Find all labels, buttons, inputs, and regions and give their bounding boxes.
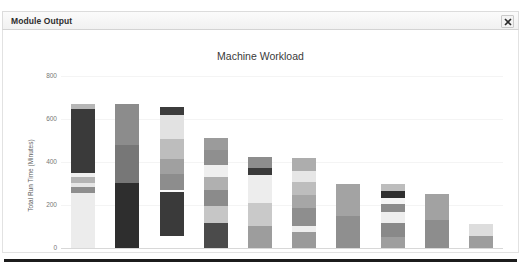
bar-segment [115,183,139,247]
bar[interactable] [160,107,184,248]
bar-segment [381,191,405,198]
bar-segment [292,171,316,182]
bar-segment [115,145,139,184]
bar[interactable] [204,138,228,248]
bar-segment [425,194,449,220]
bar-segment [469,236,493,248]
bar-segment [292,158,316,171]
bar-segment [381,184,405,191]
bar-segment [292,195,316,208]
close-icon [504,18,512,26]
bar[interactable] [248,157,272,248]
bar[interactable] [425,194,449,248]
plot-area: M1M2M3M4M5M6M7M8M9M10 [61,76,503,248]
bar-segment [71,109,95,173]
bar-segment [336,216,360,248]
bar-segment [248,175,272,203]
bar-segment [425,220,449,248]
y-tick-label: 400 [17,158,57,165]
bar-segment [292,208,316,226]
bar[interactable] [292,158,316,248]
window-titlebar: Module Output [2,11,519,30]
bar-segment [204,138,228,150]
bar-segment [160,107,184,115]
bar-segment [115,104,139,145]
bar-segment [381,223,405,236]
bar[interactable] [115,104,139,248]
chart-title: Machine Workload [3,50,518,62]
bar-segment [204,223,228,248]
bar-segment [469,224,493,236]
y-axis: Total Run Time (Minutes) 0200400600800 [11,76,57,248]
bar[interactable] [381,184,405,248]
y-axis-label: Total Run Time (Minutes) [27,111,34,241]
bar[interactable] [71,104,95,248]
machine-workload-chart: Machine Workload Total Run Time (Minutes… [3,30,518,251]
y-tick-label: 0 [17,244,57,251]
bar-segment [381,237,405,248]
gridline [61,76,503,77]
bar-segment [160,139,184,159]
close-button[interactable] [501,15,514,28]
module-output-window: Module Output Machine Workload Total Run… [0,11,521,255]
bar-segment [204,177,228,190]
bar-segment [204,190,228,205]
bar-segment [248,203,272,227]
bar-segment [248,226,272,247]
bar-segment [160,174,184,189]
bar-segment [204,150,228,164]
bar-segment [160,115,184,139]
bar-segment [292,232,316,247]
bar[interactable] [469,224,493,248]
y-tick-label: 800 [17,72,57,79]
bar[interactable] [336,184,360,248]
bar-segment [160,192,184,236]
bar-segment [381,212,405,224]
bar-segment [381,204,405,212]
x-axis-line [61,248,503,249]
window-title: Module Output [11,16,72,26]
y-tick-label: 200 [17,201,57,208]
bar-segment [71,193,95,248]
footer-rule [4,259,517,262]
bar-segment [248,157,272,168]
bar-segment [204,165,228,178]
bar-segment [160,159,184,174]
window-body: Machine Workload Total Run Time (Minutes… [2,30,519,253]
y-tick-label: 600 [17,115,57,122]
bar-segment [336,184,360,216]
bar-segment [292,182,316,195]
bar-segment [204,206,228,223]
